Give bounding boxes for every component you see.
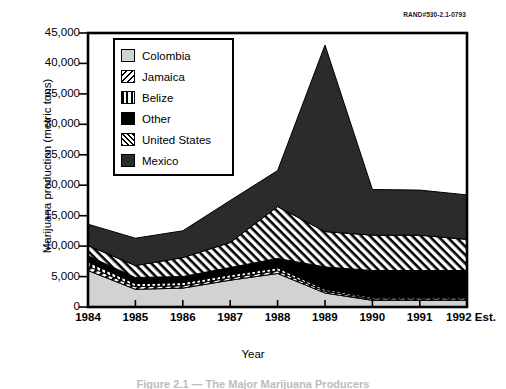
legend-item-label: Other xyxy=(142,113,171,125)
legend-item-belize[interactable]: Belize xyxy=(121,87,228,108)
other-swatch-icon xyxy=(121,112,135,125)
x-axis-title: Year xyxy=(0,348,506,360)
x-tick-label: 1991 xyxy=(407,311,433,324)
x-tick-label: 1990 xyxy=(359,311,385,324)
colombia-swatch-icon xyxy=(121,49,135,62)
x-tick-label: 1992 Est. xyxy=(446,311,496,324)
stacked-area-plot xyxy=(0,0,506,389)
united-states-swatch-icon xyxy=(121,133,135,146)
x-tick-label: 1984 xyxy=(75,311,101,324)
x-tick-label: 1986 xyxy=(170,311,196,324)
figure-caption: Figure 2.1 — The Major Marijuana Produce… xyxy=(0,378,506,389)
legend-item-label: United States xyxy=(142,134,211,146)
legend-item-united-states[interactable]: United States xyxy=(121,129,228,150)
y-axis-ticks xyxy=(79,33,88,307)
legend-item-label: Mexico xyxy=(142,155,178,167)
jamaica-swatch-icon xyxy=(121,70,135,83)
x-tick-label: 1985 xyxy=(123,311,149,324)
legend-item-mexico[interactable]: Mexico xyxy=(121,150,228,171)
legend-item-label: Belize xyxy=(142,92,173,104)
x-tick-label: 1987 xyxy=(217,311,243,324)
legend-item-label: Colombia xyxy=(142,50,191,62)
x-tick-label: 1988 xyxy=(265,311,291,324)
x-tick-label: 1989 xyxy=(312,311,338,324)
mexico-swatch-icon xyxy=(121,154,135,167)
legend-item-other[interactable]: Other xyxy=(121,108,228,129)
x-axis-tick-labels: 198419851986198719881989199019911992 Est… xyxy=(0,311,506,327)
legend-item-label: Jamaica xyxy=(142,71,185,83)
chart-legend: ColombiaJamaicaBelizeOtherUnited StatesM… xyxy=(113,38,234,176)
legend-item-colombia[interactable]: Colombia xyxy=(121,45,228,66)
figure-root: RAND#530-2.1-0793 Marijuana production (… xyxy=(0,0,506,389)
legend-item-jamaica[interactable]: Jamaica xyxy=(121,66,228,87)
belize-swatch-icon xyxy=(121,91,135,104)
